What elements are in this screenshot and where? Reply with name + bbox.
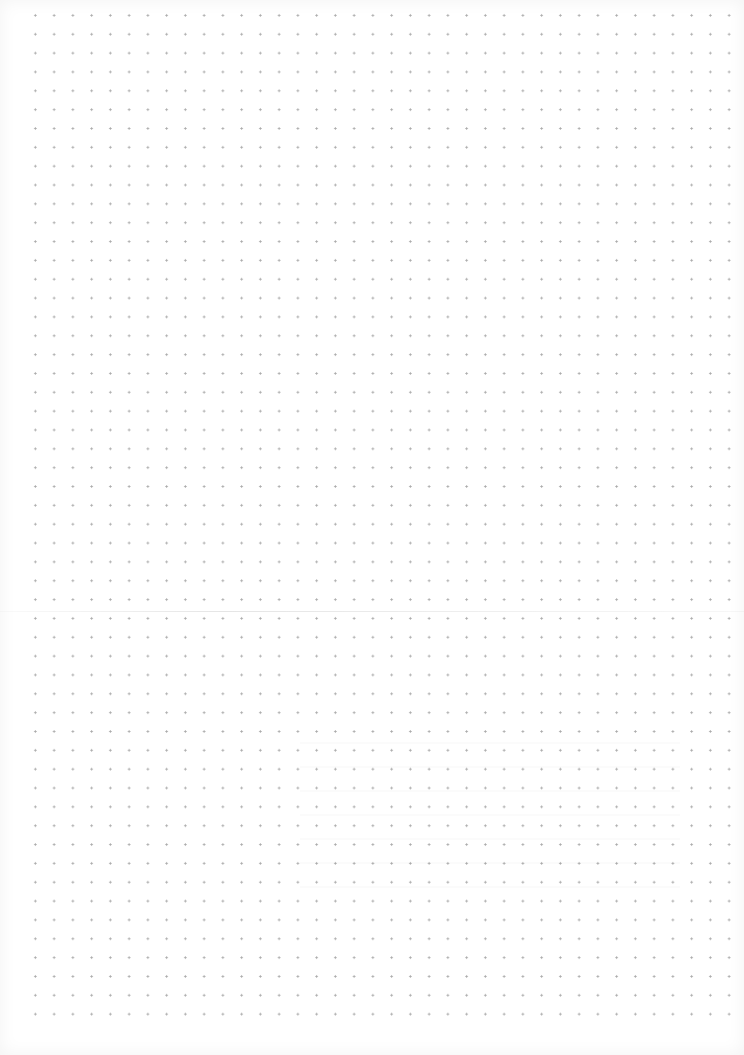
bleed-through-marks xyxy=(300,720,680,900)
dot-grid-page xyxy=(0,0,744,1055)
fold-line xyxy=(0,611,744,612)
